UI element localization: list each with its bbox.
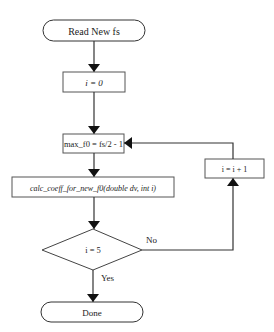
calc-coeff-box: calc_coeff_for_new_f0(double dv, int i) [12,177,174,197]
start-terminal: Read New fs [43,20,145,41]
decision-label: i = 5 [85,245,101,255]
max-f0-box: max_f0 = fs/2 - 1 [63,134,124,153]
init-i-label: i = 0 [85,78,103,88]
flowchart-canvas: Read New fs i = 0 max_f0 = fs/2 - 1 calc… [0,0,274,332]
no-label: No [146,235,157,245]
increment-box: i = i + 1 [205,159,264,178]
decision-diamond: i = 5 [42,229,142,270]
increment-label: i = i + 1 [222,165,247,174]
arrow-loop-back [124,143,233,159]
yes-label: Yes [101,273,115,283]
start-label: Read New fs [68,26,120,37]
calc-coeff-label: calc_coeff_for_new_f0(double dv, int i) [30,184,156,193]
max-f0-label: max_f0 = fs/2 - 1 [64,139,123,149]
done-label: Done [82,308,102,318]
done-terminal: Done [41,302,143,322]
init-i-box: i = 0 [63,72,125,92]
